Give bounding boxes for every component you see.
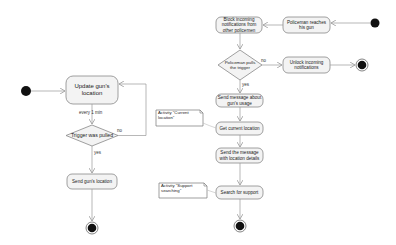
right-start-node (371, 19, 380, 28)
right-bottom-end-node-core (236, 222, 245, 231)
left-send-location-label: Send gun's location (67, 174, 117, 189)
reaches-gun-label: Policeman reaches his gun (285, 17, 328, 33)
note-current-location-text: Activity "Current location" (158, 111, 198, 121)
left-yes-label: yes (94, 150, 101, 155)
unlock-notifications-label: Unlock incoming notifications (286, 57, 327, 73)
right-yes-label: yes (242, 82, 249, 87)
activity-diagram-canvas (0, 0, 396, 245)
get-location-label: Get current location (216, 122, 263, 135)
right-no-label: no (261, 58, 266, 63)
block-notifications-label: Block incoming notifications from other … (217, 17, 261, 33)
note-support-searching-text: Activity "Support searching" (161, 184, 203, 194)
note-support-searching-connector (207, 190, 216, 193)
left-update-location-label: Update gun's location (68, 77, 116, 103)
right-decision-label: Policeman pulls the trigger (222, 58, 258, 72)
edge-decision-no-loop (118, 84, 146, 136)
send-usage-label: Send message about gun's usage (216, 94, 263, 107)
left-no-label: no (117, 128, 122, 133)
note-current-location-connector (203, 123, 216, 128)
interval-label: every 1 min (79, 110, 102, 115)
left-decision-label: Trigger was pulled (66, 130, 118, 141)
send-details-label: Send the message with location details (217, 148, 262, 163)
right-top-end-node-core (358, 61, 367, 70)
left-start-node (21, 86, 31, 96)
search-support-label: Search for support (216, 186, 263, 199)
left-end-node-core (88, 224, 97, 233)
